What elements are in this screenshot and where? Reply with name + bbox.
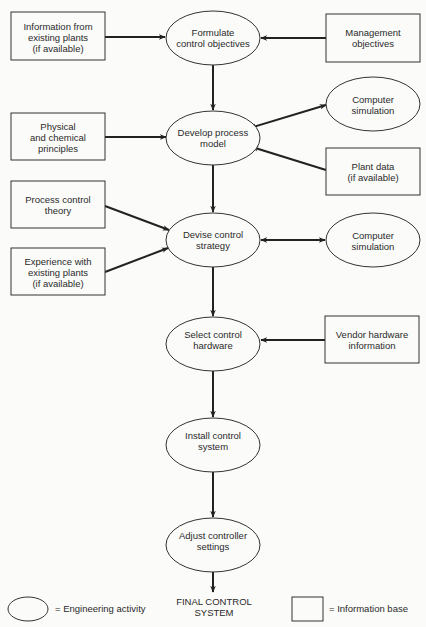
ellipse-line: simulation bbox=[352, 105, 395, 116]
ellipse-select-control-hardware: Select control hardware bbox=[166, 317, 260, 371]
ellipse-devise-control-strategy: Devise control strategy bbox=[166, 213, 260, 267]
ellipse-line: settings bbox=[197, 541, 230, 552]
legend-information-base: = Information base bbox=[292, 597, 408, 621]
box-line: (if available) bbox=[32, 278, 83, 289]
box-process-control-theory: Process control theory bbox=[11, 181, 105, 228]
ellipse-line: simulation bbox=[352, 241, 395, 252]
ellipse-line: Develop process bbox=[178, 127, 249, 138]
box-line: existing plants bbox=[28, 267, 88, 278]
box-information-from-existing-plants: Information from existing plants (if ava… bbox=[11, 12, 105, 60]
box-physical-chemical-principles: Physical and chemical principles bbox=[11, 113, 105, 160]
ellipse-line: control objectives bbox=[176, 38, 250, 49]
ellipse-computer-simulation-2: Computer simulation bbox=[326, 213, 420, 267]
box-line: information bbox=[349, 340, 396, 351]
ellipse-line: Adjust controller bbox=[179, 530, 247, 541]
box-line: Management bbox=[345, 27, 401, 38]
legend-box-icon bbox=[292, 597, 323, 621]
box-line: Information from bbox=[23, 21, 92, 32]
box-line: (if available) bbox=[347, 172, 398, 183]
final-line: FINAL CONTROL bbox=[176, 596, 252, 607]
box-line: Experience with bbox=[24, 256, 91, 267]
legend-information-label: = Information base bbox=[329, 603, 408, 614]
ellipse-computer-simulation-1: Computer simulation bbox=[326, 77, 420, 131]
final-line: SYSTEM bbox=[194, 607, 233, 618]
box-vendor-hardware-information: Vendor hardware information bbox=[325, 316, 419, 363]
box-management-objectives: Management objectives bbox=[326, 14, 420, 62]
ellipse-line: Install control bbox=[185, 430, 241, 441]
ellipse-line: hardware bbox=[193, 340, 233, 351]
ellipse-line: Computer bbox=[352, 94, 394, 105]
edge-plant-data-to-develop bbox=[252, 147, 326, 170]
final-control-system-label: FINAL CONTROL SYSTEM bbox=[176, 596, 252, 618]
box-line: and chemical bbox=[30, 132, 86, 143]
edge-experience-to-devise bbox=[105, 248, 168, 272]
ellipse-line: Formulate bbox=[192, 27, 235, 38]
box-line: principles bbox=[38, 143, 78, 154]
box-line: Process control bbox=[25, 194, 90, 205]
ellipse-line: Devise control bbox=[183, 229, 243, 240]
ellipse-develop-process-model: Develop process model bbox=[166, 111, 260, 165]
ellipse-line: strategy bbox=[196, 240, 230, 251]
box-line: Vendor hardware bbox=[336, 329, 408, 340]
box-line: Physical bbox=[40, 121, 75, 132]
ellipse-install-control-system: Install control system bbox=[166, 418, 260, 472]
box-experience-with-existing-plants: Experience with existing plants (if avai… bbox=[11, 248, 105, 295]
ellipse-line: system bbox=[198, 441, 228, 452]
process-control-design-flowchart: Information from existing plants (if ava… bbox=[0, 0, 426, 627]
edge-pc-theory-to-devise bbox=[105, 206, 169, 230]
ellipse-line: model bbox=[200, 138, 226, 149]
box-line: existing plants bbox=[28, 32, 88, 43]
edge-develop-sim1-bidirectional bbox=[250, 105, 326, 128]
box-line: objectives bbox=[352, 38, 394, 49]
box-line: theory bbox=[45, 205, 72, 216]
ellipse-line: Select control bbox=[184, 329, 242, 340]
box-line: (if available) bbox=[32, 43, 83, 54]
box-plant-data: Plant data (if available) bbox=[326, 148, 420, 195]
box-line: Plant data bbox=[352, 161, 395, 172]
ellipse-line: Computer bbox=[352, 230, 394, 241]
activity-ellipses: Formulate control objectives Develop pro… bbox=[166, 11, 420, 572]
legend-engineering-activity: = Engineering activity bbox=[8, 597, 146, 621]
legend-activity-label: = Engineering activity bbox=[55, 603, 146, 614]
ellipse-adjust-controller-settings: Adjust controller settings bbox=[166, 518, 260, 572]
ellipse-formulate-control-objectives: Formulate control objectives bbox=[166, 11, 260, 65]
legend-ellipse-icon bbox=[8, 597, 48, 621]
